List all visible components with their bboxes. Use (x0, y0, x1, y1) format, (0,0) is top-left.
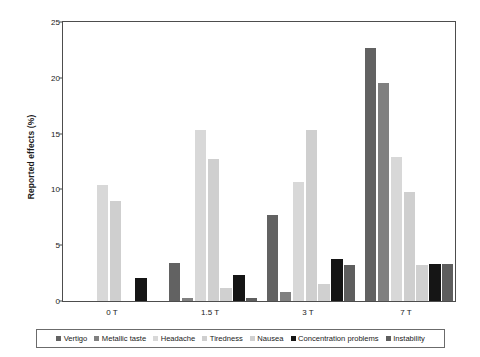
bar (331, 259, 342, 301)
bar (442, 264, 453, 301)
legend-item[interactable]: Concentration problems (291, 335, 379, 343)
chart-figure: Reported effects (%) 05101520250 T1.5 T3… (0, 0, 480, 357)
y-axis-tick-mark (59, 245, 63, 246)
x-axis-tick-label: 3 T (302, 308, 313, 317)
legend-item[interactable]: Metallic taste (94, 335, 146, 343)
bar (318, 284, 329, 301)
legend-swatch-icon (153, 336, 158, 341)
bar (182, 298, 193, 301)
bar (208, 159, 219, 301)
legend-item[interactable]: Headache (153, 335, 195, 343)
legend-item[interactable]: Instability (386, 335, 425, 343)
bar (365, 48, 376, 301)
bar (97, 185, 108, 301)
y-axis-tick-mark (59, 77, 63, 78)
legend-swatch-icon (250, 336, 255, 341)
bar (404, 192, 415, 301)
bar (195, 130, 206, 301)
legend-swatch-icon (386, 336, 391, 341)
bar (233, 275, 244, 301)
bar (429, 264, 440, 301)
legend-label: Instability (393, 335, 425, 343)
bar (220, 288, 231, 301)
bar (246, 298, 257, 301)
y-axis-tick-mark (59, 301, 63, 302)
bar (378, 83, 389, 301)
legend-item[interactable]: Vertigo (56, 335, 87, 343)
legend-swatch-icon (56, 336, 61, 341)
x-axis-tick-label: 7 T (400, 308, 411, 317)
legend-label: Nausea (257, 335, 283, 343)
legend-swatch-icon (291, 336, 296, 341)
legend-label: Tiredness (210, 335, 243, 343)
bar (391, 157, 402, 301)
y-axis-tick-mark (59, 22, 63, 23)
legend-item[interactable]: Tiredness (202, 335, 243, 343)
bar (344, 265, 355, 301)
legend-label: Metallic taste (102, 335, 146, 343)
bar (416, 265, 427, 301)
y-axis-title: Reported effects (%) (26, 62, 36, 252)
legend-swatch-icon (202, 336, 207, 341)
bar (267, 215, 278, 301)
x-axis-tick-label: 1.5 T (201, 308, 219, 317)
y-axis-tick-mark (59, 189, 63, 190)
bar (110, 201, 121, 301)
legend-swatch-icon (94, 336, 99, 341)
y-axis-tick-mark (59, 133, 63, 134)
legend-label: Vertigo (64, 335, 88, 343)
bar (306, 130, 317, 301)
chart-legend: VertigoMetallic tasteHeadacheTirednessNa… (36, 329, 445, 348)
plot-area: 05101520250 T1.5 T3 T7 T (62, 21, 456, 302)
bar (135, 278, 146, 301)
bar (169, 263, 180, 301)
plot-inner: 05101520250 T1.5 T3 T7 T (63, 22, 455, 301)
legend-item[interactable]: Nausea (250, 335, 284, 343)
legend-label: Concentration problems (298, 335, 379, 343)
bar (280, 292, 291, 301)
bar (293, 182, 304, 301)
legend-label: Headache (161, 335, 196, 343)
x-axis-tick-label: 0 T (106, 308, 117, 317)
